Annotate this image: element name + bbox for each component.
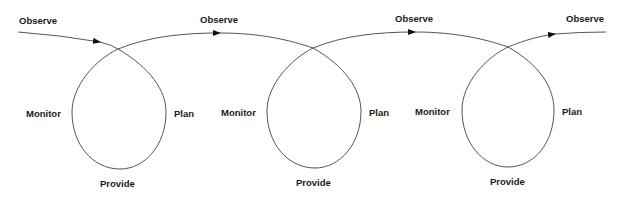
monitor-label-3: Monitor — [415, 106, 450, 117]
loop-3 — [415, 32, 555, 167]
loop-2 — [220, 32, 415, 168]
observe-label-3: Observe — [395, 13, 433, 24]
monitor-label-1: Monitor — [26, 108, 61, 119]
observe-label-1: Observe — [19, 15, 57, 26]
entry-arrow — [18, 32, 100, 42]
observe-label-final: Observe — [566, 13, 604, 24]
provide-label-3: Provide — [490, 176, 525, 187]
monitor-label-2: Monitor — [221, 107, 256, 118]
provide-label-2: Provide — [296, 177, 331, 188]
plan-label-2: Plan — [369, 107, 389, 118]
plan-label-3: Plan — [562, 106, 582, 117]
plan-label-1: Plan — [174, 108, 194, 119]
spiral-diagram — [0, 0, 621, 197]
provide-label-1: Provide — [100, 178, 135, 189]
loop-1 — [72, 33, 220, 169]
exit-line — [555, 32, 606, 34]
observe-label-2: Observe — [200, 14, 238, 25]
